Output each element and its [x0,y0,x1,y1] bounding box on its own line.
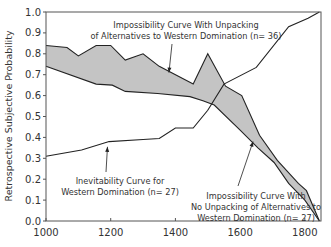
annotation-inevit: Inevitability Curve for [76,176,165,186]
y-tick-label: 0.2 [25,174,41,185]
arrowhead-icon [105,147,109,152]
y-tick-label: 0.1 [25,195,41,206]
annotation-inevit: Western Domination (n= 27) [61,187,179,197]
x-tick-label: 1800 [292,227,317,238]
annotation-nounpack: Impossibility Curve With [206,191,305,201]
x-tick-label: 1000 [33,227,58,238]
y-tick-label: 1.0 [25,7,41,18]
y-axis-label: Retrospective Subjective Probability [3,30,14,201]
y-tick-label: 0.7 [25,69,41,80]
y-tick-label: 0.5 [25,111,41,122]
y-tick-label: 0.6 [25,90,41,101]
y-tick-label: 0.3 [25,153,41,164]
x-tick-label: 1400 [163,227,188,238]
annotation-unpack: of Alternatives to Western Domination (n… [91,31,282,41]
annotation-unpack: Impossibility Curve With Unpacking [113,20,258,30]
arrowhead-icon [250,142,254,147]
y-tick-label: 0.4 [25,132,41,143]
x-tick-label: 1600 [227,227,252,238]
y-axis: 0.00.10.20.30.40.50.60.70.80.91.0 [25,7,46,227]
y-tick-label: 0.9 [25,27,41,38]
annotation-nounpack: No Unpacking of Alternatives to [191,202,321,212]
chart: 10001200140016001800 0.00.10.20.30.40.50… [0,0,331,247]
annotation-arrow [238,142,253,186]
y-tick-label: 0.0 [25,216,41,227]
y-tick-label: 0.8 [25,48,41,59]
annotation-nounpack: Western Domination (n= 27) [197,213,315,223]
x-tick-label: 1200 [98,227,123,238]
